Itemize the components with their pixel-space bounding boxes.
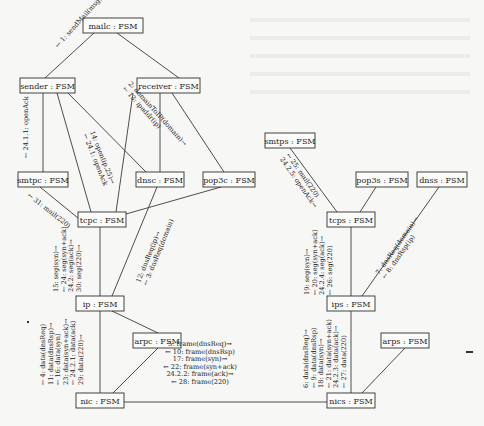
node-mailc[interactable]: mailc : FSM <box>83 18 143 33</box>
node-label: mailc : FSM <box>89 22 138 31</box>
node-label: smtps : FSM <box>264 137 315 146</box>
page-bleed-through <box>240 8 480 108</box>
node-label: tcps : FSM <box>329 216 373 225</box>
node-label: dnsc : FSM <box>137 176 183 185</box>
node-ip[interactable]: ip : FSM <box>76 296 124 311</box>
node-label: tcpc : FSM <box>80 216 124 225</box>
dash-mark <box>466 351 473 353</box>
node-label: pop3c : FSM <box>203 176 255 185</box>
edge-pop3s-tcps <box>360 187 376 212</box>
message-group-m-dnss-ips: 7: dnsReq(domain)→← 8: dnsRsp(ip) <box>374 215 427 281</box>
node-dnsc[interactable]: dnsc : FSM <box>136 172 184 187</box>
message-group-m-nic-nics: 5: frame(dnsReq)→← 10: frame(dnsRsp)17: … <box>163 340 237 386</box>
node-smtps[interactable]: smtps : FSM <box>264 133 315 148</box>
node-dnss[interactable]: dnss : FSM <box>417 172 467 187</box>
edge-pop3c-tcpc <box>126 187 221 214</box>
message-group-m-sender-tcpc: 14: open(ip,25)→← 24.1: openAck <box>81 130 117 189</box>
diagram-canvas: mailc : FSMsender : FSMreceiver : FSMsmt… <box>0 0 484 426</box>
node-label: ips : FSM <box>332 300 371 309</box>
message-group-m-sender-smtpc: ← 24.1.1: openAck <box>22 95 30 158</box>
message-group-m-smtps-tcps: ← 25: mail(220)24.2.5: openAck→ <box>278 152 325 210</box>
node-label: ip : FSM <box>83 300 118 309</box>
message-group-m-tcps-ips: 19: seg(syn)→← 20: seg(syn+ack)24.2.4: s… <box>303 229 334 295</box>
message-group-m-tcpc-ip: 15: seg(syn)→← 24: seg(syn+ack)24.2: seg… <box>52 226 83 292</box>
message-group-m-dnsc-ip: 12: dnsReq(ip)→← 3: dnsReq(domain) <box>134 215 175 287</box>
node-pop3c[interactable]: pop3c : FSM <box>203 172 255 187</box>
node-tcpc[interactable]: tcpc : FSM <box>78 212 126 227</box>
message-label: ← 24.1.1: openAck <box>22 95 30 158</box>
edge-mailc-receiver <box>117 33 179 78</box>
node-sender[interactable]: sender : FSM <box>20 78 75 93</box>
message-label: 7: dnsReq(domain)→ <box>374 215 420 276</box>
message-label: ← 28: frame(220) <box>171 378 229 386</box>
node-label: pop3s : FSM <box>356 176 407 185</box>
node-label: receiver : FSM <box>138 82 198 91</box>
message-label: ← 31: mail(220) <box>26 191 73 230</box>
node-label: smtpc : FSM <box>17 176 69 185</box>
message-label: 30: seg(220)→ <box>75 244 83 292</box>
edge-arpc-nic <box>113 348 158 393</box>
message-labels: ← 1: sendMail(msg)2: domainToIP(domain)→… <box>22 0 427 388</box>
speck-mark <box>27 321 29 323</box>
node-pop3s[interactable]: pop3s : FSM <box>356 172 408 187</box>
communication-diagram: mailc : FSMsender : FSMreceiver : FSMsmt… <box>0 0 484 426</box>
node-label: dnss : FSM <box>419 176 465 185</box>
message-group-m-ips-nics: 6: data(dnsReq)→← 9: data(dnsRsp)18: dat… <box>302 319 348 388</box>
edge-ip-arpc <box>112 311 158 333</box>
message-group-m-smtpc-tcpc: ← 31: mail(220) <box>26 191 73 230</box>
node-smtpc[interactable]: smtpc : FSM <box>17 172 69 187</box>
node-arps[interactable]: arps : FSM <box>381 333 429 348</box>
node-tcps[interactable]: tcps : FSM <box>327 212 375 227</box>
edge-receiver-tcpc <box>116 93 133 212</box>
node-nics[interactable]: nics : FSM <box>327 393 375 408</box>
edge-arps-nics <box>362 348 405 393</box>
edge-mailc-sender <box>45 33 94 78</box>
message-label: 29: data(220)→ <box>77 334 85 385</box>
node-label: sender : FSM <box>20 82 75 91</box>
node-ips[interactable]: ips : FSM <box>327 296 375 311</box>
message-group-m-ip-nic: ← 4: data(dnsReq)11: data(dnsRsp)→← 16: … <box>39 318 85 385</box>
node-label: arps : FSM <box>383 337 428 346</box>
node-receiver[interactable]: receiver : FSM <box>137 78 200 93</box>
message-label: ← 27: data(220) <box>340 335 348 388</box>
node-label: nics : FSM <box>329 397 372 406</box>
message-label: ← 26: seg(220) <box>326 245 334 295</box>
node-nic[interactable]: nic : FSM <box>76 393 124 408</box>
node-label: nic : FSM <box>80 397 119 406</box>
